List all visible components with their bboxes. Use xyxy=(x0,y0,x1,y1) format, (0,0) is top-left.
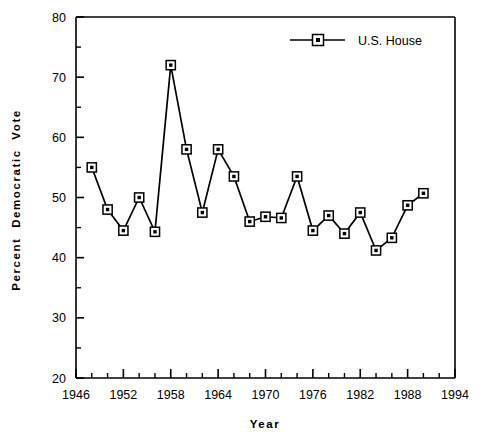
x-axis-title: Year xyxy=(250,418,281,430)
data-point-marker xyxy=(403,201,412,210)
series-u-s-house xyxy=(87,61,428,256)
data-point-marker xyxy=(340,229,349,238)
marker-inner xyxy=(295,175,298,178)
data-point-marker xyxy=(119,226,128,235)
data-point-marker xyxy=(387,233,396,242)
marker-inner xyxy=(327,214,330,217)
x-tick-label: 1994 xyxy=(441,388,469,402)
series-line xyxy=(92,65,424,250)
marker-inner xyxy=(232,175,235,178)
x-tick-label: 1958 xyxy=(157,388,185,402)
data-point-marker xyxy=(87,163,96,172)
y-tick-label: 30 xyxy=(52,311,66,325)
data-point-marker xyxy=(150,227,159,236)
legend: U.S. House xyxy=(290,34,422,48)
marker-inner xyxy=(311,229,314,232)
data-point-marker xyxy=(198,208,207,217)
x-tick-label: 1982 xyxy=(346,388,374,402)
marker-inner xyxy=(106,208,109,211)
marker-inner xyxy=(264,215,267,218)
x-tick-label: 1952 xyxy=(109,388,137,402)
x-tick-label: 1988 xyxy=(394,388,422,402)
marker-inner xyxy=(248,220,251,223)
y-tick-label: 60 xyxy=(52,131,66,145)
data-point-marker xyxy=(419,189,428,198)
chart-figure: 20304050607080 1946195219581964197019761… xyxy=(0,0,490,442)
data-point-marker xyxy=(371,246,380,255)
x-tick-label: 1946 xyxy=(62,388,90,402)
line-chart-svg: 20304050607080 1946195219581964197019761… xyxy=(0,0,490,442)
marker-inner xyxy=(406,204,409,207)
marker-inner xyxy=(280,216,283,219)
data-point-marker xyxy=(261,212,270,221)
data-point-marker xyxy=(277,213,286,222)
marker-inner xyxy=(359,211,362,214)
y-axis-tick-labels: 20304050607080 xyxy=(52,11,66,386)
marker-inner xyxy=(374,249,377,252)
marker-inner xyxy=(90,166,93,169)
legend-entry-label: U.S. House xyxy=(358,34,422,48)
x-axis-tick-labels: 194619521958196419701976198219881994 xyxy=(62,388,469,402)
data-point-marker xyxy=(324,211,333,220)
data-point-marker xyxy=(292,172,301,181)
marker-inner xyxy=(216,148,219,151)
legend-marker-sample xyxy=(313,35,324,46)
marker-inner xyxy=(122,229,125,232)
data-point-marker xyxy=(356,208,365,217)
x-axis-ticks xyxy=(76,369,455,378)
data-point-marker xyxy=(245,217,254,226)
marker-inner xyxy=(422,192,425,195)
y-axis-title: Percent Democratic Vote xyxy=(10,109,22,291)
x-tick-label: 1976 xyxy=(299,388,327,402)
marker-inner xyxy=(137,196,140,199)
data-point-marker xyxy=(135,193,144,202)
y-tick-label: 50 xyxy=(52,191,66,205)
y-tick-label: 80 xyxy=(52,11,66,25)
y-axis-ticks xyxy=(76,17,84,378)
data-point-marker xyxy=(182,145,191,154)
marker-inner xyxy=(185,148,188,151)
plot-frame xyxy=(76,17,455,378)
data-point-marker xyxy=(103,205,112,214)
data-point-marker xyxy=(166,61,175,70)
data-series-layer xyxy=(87,61,428,256)
data-point-marker xyxy=(229,172,238,181)
data-point-marker xyxy=(308,226,317,235)
marker-inner xyxy=(343,232,346,235)
marker-inner xyxy=(153,230,156,233)
marker-inner xyxy=(390,236,393,239)
y-tick-label: 40 xyxy=(52,251,66,265)
x-tick-label: 1964 xyxy=(204,388,232,402)
x-tick-label: 1970 xyxy=(252,388,280,402)
y-tick-label: 20 xyxy=(52,372,66,386)
data-point-marker xyxy=(214,145,223,154)
marker-inner xyxy=(201,211,204,214)
y-tick-label: 70 xyxy=(52,71,66,85)
marker-inner xyxy=(169,63,172,66)
